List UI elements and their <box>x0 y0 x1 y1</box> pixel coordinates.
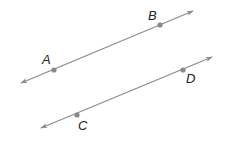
label-b: B <box>148 8 157 23</box>
point-c <box>74 112 79 117</box>
line-cd: C D <box>41 57 212 133</box>
point-d <box>180 67 185 72</box>
label-d: D <box>186 71 195 86</box>
line-cd-segment <box>41 57 212 128</box>
label-a: A <box>41 52 51 67</box>
parallel-lines-diagram: A B C D <box>0 0 226 142</box>
label-c: C <box>78 118 88 133</box>
point-b <box>157 22 162 27</box>
line-ab-segment <box>21 11 193 83</box>
line-ab: A B <box>21 8 193 83</box>
point-a <box>51 67 56 72</box>
